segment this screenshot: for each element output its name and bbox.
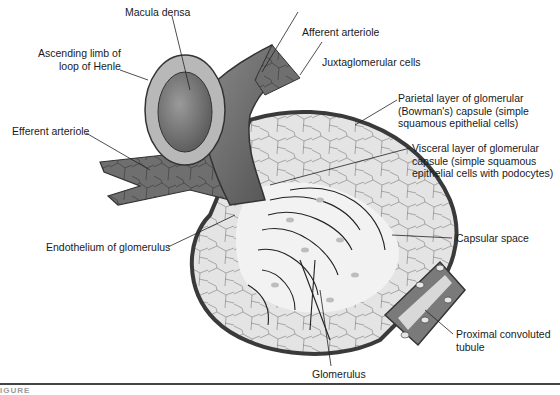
- figure-caption-fragment: IGURE: [0, 386, 30, 395]
- label-endothelium: Endothelium of glomerulus: [46, 241, 170, 254]
- label-parietal-layer: Parietal layer of glomerular (Bowman's) …: [398, 92, 529, 130]
- ascending-limb: [145, 55, 225, 165]
- label-macula-densa: Macula densa: [125, 6, 190, 19]
- label-capsular-space: Capsular space: [456, 232, 529, 245]
- label-proximal-tubule: Proximal convoluted tubule: [456, 328, 551, 353]
- label-ascending-limb: Ascending limb of loop of Henle: [38, 47, 121, 72]
- label-glomerulus: Glomerulus: [312, 368, 366, 381]
- label-afferent-arteriole: Afferent arteriole: [302, 26, 379, 39]
- caption-divider: [0, 383, 560, 385]
- label-visceral-layer: Visceral layer of glomerular capsule (si…: [412, 142, 553, 180]
- label-juxtaglomerular-cells: Juxtaglomerular cells: [322, 56, 421, 69]
- label-efferent-arteriole: Efferent arteriole: [12, 125, 89, 138]
